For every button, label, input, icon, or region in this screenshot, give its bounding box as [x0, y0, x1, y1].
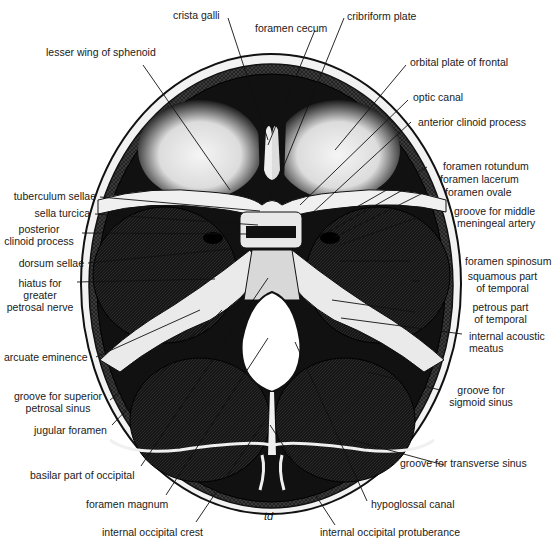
label-sella-turcica: sella turcica	[8, 207, 90, 219]
label-squamous-part-of-temporal: squamous part of temporal	[465, 270, 540, 294]
label-cribriform-plate: cribriform plate	[347, 10, 416, 22]
label-posterior-clinoid-process: posterior clinoid process	[0, 223, 78, 247]
label-groove-for-transverse-sinus: groove for transverse sinus	[400, 457, 527, 469]
label-crista-galli: crista galli	[173, 9, 220, 21]
skull-base-diagram: td crista galli foramen cecum cribriform…	[0, 0, 555, 546]
label-arcuate-eminence: arcuate eminence	[4, 351, 87, 363]
label-petrous-part-of-temporal: petrous part of temporal	[468, 301, 533, 325]
label-foramen-rotundum: foramen rotundum	[443, 160, 529, 172]
label-hiatus-for-greater-petrosal-nerve: hiatus for greater petrosal nerve	[0, 277, 80, 313]
label-groove-for-sigmoid-sinus: groove for sigmoid sinus	[440, 384, 522, 408]
label-dorsum-sellae: dorsum sellae	[4, 257, 84, 269]
label-internal-occipital-protuberance: internal occipital protuberance	[320, 526, 460, 538]
label-foramen-cecum: foramen cecum	[255, 22, 327, 34]
label-jugular-foramen: jugular foramen	[34, 424, 107, 436]
label-internal-acoustic-meatus: internal acoustic meatus	[469, 330, 545, 354]
label-foramen-lacerum: foramen lacerum	[440, 173, 519, 185]
label-basilar-part-of-occipital: basilar part of occipital	[30, 469, 134, 481]
label-lesser-wing-of-sphenoid: lesser wing of sphenoid	[46, 46, 156, 58]
artist-signature: td	[264, 510, 274, 522]
label-internal-occipital-crest: internal occipital crest	[102, 526, 203, 538]
label-optic-canal: optic canal	[413, 91, 463, 103]
label-tuberculum-sellae: tuberculum sellae	[8, 190, 96, 202]
label-foramen-spinosum: foramen spinosum	[465, 255, 551, 267]
label-orbital-plate-of-frontal: orbital plate of frontal	[410, 56, 508, 68]
label-anterior-clinoid-process: anterior clinoid process	[418, 116, 526, 128]
label-hypoglossal-canal: hypoglossal canal	[371, 498, 454, 510]
label-groove-for-superior-petrosal-sinus: groove for superior petrosal sinus	[8, 390, 108, 414]
label-groove-for-middle-meningeal-artery: groove for middle meningeal artery	[454, 205, 535, 229]
label-foramen-ovale: foramen ovale	[445, 186, 512, 198]
label-foramen-magnum: foramen magnum	[86, 498, 168, 510]
